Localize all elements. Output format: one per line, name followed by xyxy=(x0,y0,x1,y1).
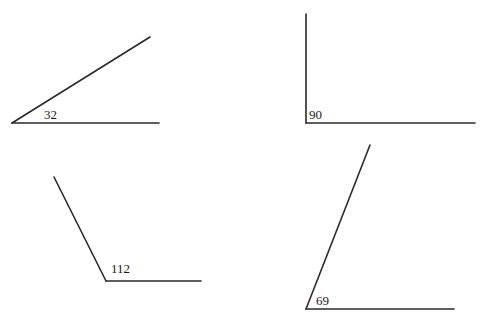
angle-4-ray xyxy=(306,145,370,309)
angle-2-label: 90 xyxy=(309,108,322,121)
angle-4-label: 69 xyxy=(316,294,329,307)
angle-1 xyxy=(12,37,159,123)
angles-svg xyxy=(0,0,488,321)
angle-4 xyxy=(306,145,454,309)
angle-3-ray xyxy=(54,177,106,281)
angle-3-label: 112 xyxy=(111,262,130,275)
angle-1-label: 32 xyxy=(44,108,57,121)
angle-1-ray xyxy=(12,37,150,123)
angles-diagram: 32 90 112 69 xyxy=(0,0,488,321)
angle-2 xyxy=(306,14,475,123)
